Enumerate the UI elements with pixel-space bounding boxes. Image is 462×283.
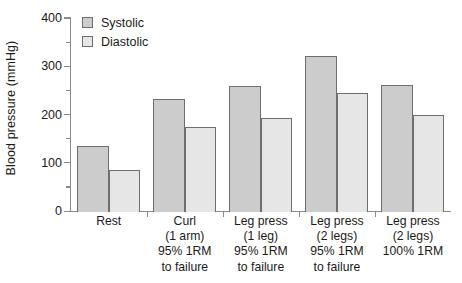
bar-diastolic-3 [337, 93, 369, 212]
legend-swatch-icon [82, 17, 93, 28]
legend-item-systolic: Systolic [82, 14, 148, 31]
x-axis-category-label-line: 100% 1RM [366, 244, 460, 259]
bar-systolic-0 [77, 146, 109, 212]
chart-legend: SystolicDiastolic [82, 14, 148, 52]
x-axis-category-label: Leg press(2 legs)100% 1RM [366, 214, 460, 260]
bar-diastolic-0 [109, 170, 141, 212]
x-axis-category-label-line: (2 legs) [366, 229, 460, 244]
bar-diastolic-1 [185, 127, 217, 212]
bar-systolic-1 [153, 99, 185, 212]
x-axis-category-labels: RestCurl(1 arm)95% 1RMto failureLeg pres… [0, 214, 462, 283]
bar-diastolic-2 [261, 118, 293, 212]
bar-systolic-4 [381, 85, 413, 212]
legend-item-diastolic: Diastolic [82, 33, 148, 50]
bar-systolic-3 [305, 56, 337, 212]
x-axis-category-label-line: to failure [290, 260, 384, 275]
legend-swatch-icon [82, 36, 93, 47]
bar-systolic-2 [229, 86, 261, 212]
legend-label: Diastolic [101, 35, 148, 49]
bar-chart-figure: Blood pressure (mmHg) 0100200300400 Syst… [0, 0, 462, 283]
bar-diastolic-4 [413, 115, 445, 212]
x-axis-category-label-line: Leg press [366, 214, 460, 229]
legend-label: Systolic [101, 16, 144, 30]
